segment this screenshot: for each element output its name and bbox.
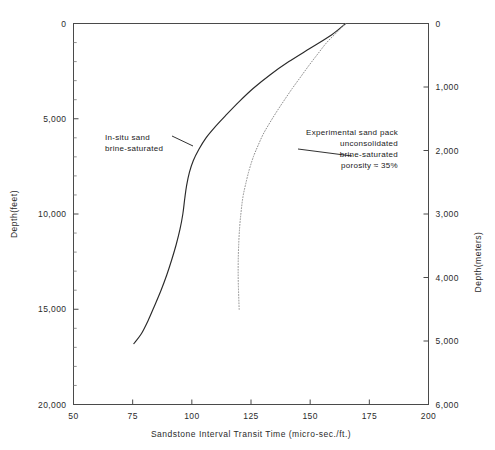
chart-svg: 05,00010,00015,00020,000 01,0002,0003,00… [0,0,495,450]
x-ticklabel: 125 [243,411,258,421]
y2-ticklabel: 6,000 [436,400,459,410]
plot-area-border [74,24,429,405]
annotation-sand-pack-line: Experimental sand pack [306,128,399,137]
y2-ticklabel: 2,000 [436,146,459,156]
y-ticklabel: 20,000 [38,400,66,410]
y-ticklabel: 10,000 [38,209,66,219]
annotation-in-situ-line: brine-saturated [105,144,163,153]
x-ticklabel: 150 [302,411,317,421]
y-ticklabel: 15,000 [38,304,66,314]
y2-ticklabel: 4,000 [436,273,459,283]
annotation-in-situ-line: In-situ sand [105,133,150,142]
y2-ticklabel: 1,000 [436,82,459,92]
y2-ticklabel: 0 [436,19,441,29]
y-axis-left-title: Depth(feet) [9,190,19,238]
x-axis-ticklabels: 5075100125150175200 [68,411,436,421]
x-ticklabel: 100 [184,411,199,421]
y-ticklabel: 5,000 [43,114,66,124]
y2-ticklabel: 5,000 [436,336,459,346]
y-axis-right-ticklabels: 01,0002,0003,0004,0005,0006,000 [436,19,459,410]
annotation-sand-pack-line: unconsolidated [340,139,398,148]
y-axis-left-ticklabels: 05,00010,00015,00020,000 [38,19,66,410]
y-axis-right-title: Depth(meters) [473,232,483,293]
data-curves [134,24,346,344]
leader-line-in-situ [172,136,193,146]
x-axis-ticks [74,400,429,405]
y2-ticklabel: 3,000 [436,209,459,219]
x-ticklabel: 175 [362,411,377,421]
x-ticklabel: 75 [128,411,138,421]
x-ticklabel: 50 [68,411,78,421]
x-ticklabel: 200 [421,411,436,421]
y-axis-left-ticks [74,24,79,405]
y-ticklabel: 0 [61,19,66,29]
curve-annotations: In-situ sandbrine-saturatedExperimental … [105,128,399,170]
curve-experimental-sand-pack [238,24,346,310]
curve-in-situ-sand [134,24,346,344]
plot-frame [74,24,429,405]
annotation-sand-pack-line: brine-saturated [340,150,398,159]
y-axis-right-ticks [424,24,429,405]
annotation-sand-pack-line: porosity ≈ 35% [341,161,398,170]
chart-figure: 05,00010,00015,00020,000 01,0002,0003,00… [0,0,495,450]
x-axis-title: Sandstone Interval Transit Time (micro-s… [151,429,351,439]
